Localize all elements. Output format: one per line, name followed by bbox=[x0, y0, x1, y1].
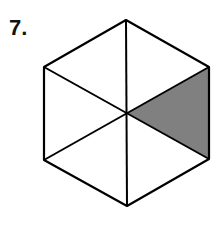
shaded-sector bbox=[127, 67, 209, 159]
hexagon-figure bbox=[0, 0, 217, 226]
